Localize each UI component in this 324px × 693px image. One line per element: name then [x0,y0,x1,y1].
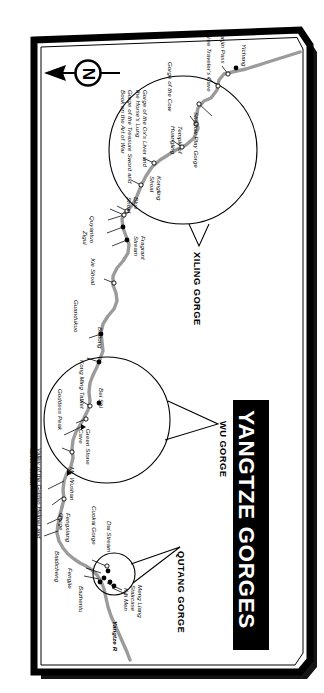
label-fragrant-stream-text: Fragrant Stream [133,236,146,270]
marker-baidicheng [106,569,111,574]
label-baidicheng: Baidicheng [53,551,60,582]
label-gorge-of-the-cow: Gorge of the Cow [166,62,173,111]
marker-shadow-play-gorge [197,102,201,106]
label-green-stone-cave: Green Stone Cave [78,429,91,469]
label-temple-of-huangling-text: Temple of Huangling [170,126,183,172]
marker-cuokai-gorge [62,497,66,501]
label-xie-shoal: Xie Shoal [89,258,96,285]
label-bei-shi: Bei Shi [97,388,104,408]
marker-xie-shoal [112,281,116,285]
marker-fengjie [102,576,107,581]
marker-gorge-ox-liver [152,161,156,165]
label-gorge-ox-liver: Gorge of the Ox's Liver and the Horse's … [135,90,148,176]
label-three-travelers-cave-line1: Three Traveler's Cave [205,30,212,92]
label-kong-ming-tablet: Kong Ming Tablet [78,360,85,409]
marker-zigui [125,238,130,243]
marker-bazhentu [98,580,103,585]
marker-quyantuo [121,225,126,230]
label-dai-stream: Dai Stream [105,521,112,552]
label-valley-golden-helmet-text: Valley of the Golden Helmet and Silver A… [29,448,42,540]
label-fragrant-stream: Fragrant Stream [133,236,146,270]
label-nanjin-pass: Nanjin Pass [219,30,226,64]
marker-badong [97,360,102,365]
label-meng-liang-staircase-text: Meng Liang Staircase [130,585,143,623]
marker-kui-men [108,580,113,585]
label-goddess-peak: Goddess Peak [56,389,63,430]
label-valley-golden-helmet: Valley of the Golden Helmet and Silver A… [29,448,42,540]
label-three-travelers-cave: Three Traveler's Cave [205,30,212,92]
label-yangtze-river: Yangtze R [111,621,118,651]
label-fengxiang-gorge: Fengxiang Gorge [58,513,71,549]
marker-nanjin-pass [226,72,230,76]
marker-valley-golden-helmet [70,450,74,454]
label-kongling-shoal-text: Kongling Shoal [149,176,162,210]
label-badong: Badong [96,327,103,349]
label-bazhentu: Bazhentu [77,586,84,613]
marker-three-travelers-cave [216,84,220,88]
marker-kong-ming-tablet [88,404,92,408]
label-shadow-play-gorge: Shadow Play Gorge [192,112,199,168]
label-mt-wushan: Mt. Wushan [68,467,75,501]
gorge-section-xiling: XILING GORGE [192,252,202,326]
marker-fengxiang-gorge [105,564,109,568]
label-quyantuo: Quyantuo [88,216,95,243]
yangtze-gorges-map: N YANGTZE GORGES XILING GORGE WU GORGE Q… [0,0,324,693]
label-yichang: Yichang [240,44,247,67]
label-fengjie: Fengjie [66,568,73,589]
marker-green-stone-cave [84,417,88,421]
map-title: YANGTZE GORGES [233,410,259,629]
label-gorge-ox-liver-text: Gorge of the Ox's Liver and the Horse's … [135,90,148,176]
compass-north-letter: N [78,68,98,80]
label-guandukuo: Guandukuo [72,300,79,332]
label-kui-men: Kui Men [122,588,129,611]
label-kongling-shoal: Kongling Shoal [149,176,162,210]
label-gorge-treasure-sword-text: Gorge of the Treasure Sword and Book on … [120,90,133,195]
label-blue-shoal: Blue Shoal [126,197,139,223]
marker-gorge-treasure-sword [139,183,143,187]
gorge-section-qutang: QUTANG GORGE [176,551,186,633]
marker-yichang [234,66,239,71]
map-canvas [0,0,324,693]
label-fengxiang-gorge-text: Fengxiang Gorge [58,513,71,549]
label-meng-liang-staircase: Meng Liang Staircase [130,585,143,623]
label-blue-shoal-text: Blue Shoal [126,197,139,223]
label-temple-of-huangling: Temple of Huangling [170,126,183,172]
marker-meng-liang [112,584,117,589]
label-cuokai-gorge: Cuokai Gorge [90,506,97,545]
label-gorge-treasure-sword: Gorge of the Treasure Sword and Book on … [120,90,133,195]
label-green-stone-cave-text: Green Stone Cave [78,429,91,469]
gorge-section-wu: WU GORGE [218,421,228,477]
label-zigui: Zigui [81,231,88,245]
